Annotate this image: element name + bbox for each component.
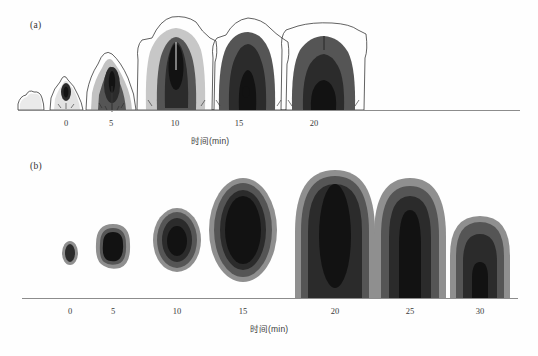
panel-b-axis-title: 时间(min) [0, 322, 538, 334]
plume-a-4 [212, 18, 289, 110]
figure-root: (a) [0, 0, 538, 356]
blob-b-1 [96, 224, 130, 269]
tick-a-15: 15 [235, 118, 244, 128]
panel-a-plot [0, 0, 538, 110]
plume-a-5 [281, 23, 367, 110]
plume-a-3 [137, 17, 217, 110]
panel-b: (b) [0, 152, 538, 356]
blob-b-0 [62, 241, 78, 265]
tick-b-25: 25 [406, 306, 415, 316]
tick-b-20: 20 [331, 306, 340, 316]
tick-a-0: 0 [64, 118, 68, 128]
plume-a-0 [18, 91, 44, 110]
panel-b-baseline [22, 298, 518, 299]
tick-b-5: 5 [111, 306, 115, 316]
panel-a: (a) [0, 0, 538, 152]
blob-b-6 [450, 216, 510, 298]
tick-a-20: 20 [310, 118, 319, 128]
panel-a-plumes [0, 0, 538, 112]
tick-b-15: 15 [239, 306, 248, 316]
blob-b-3 [209, 178, 277, 282]
plume-a-1 [50, 76, 83, 110]
panel-a-axis-title: 时间(min) [0, 134, 420, 146]
tick-b-10: 10 [173, 306, 182, 316]
tick-b-30: 30 [476, 306, 485, 316]
panel-b-plot [0, 152, 538, 298]
blob-b-5 [374, 178, 446, 298]
panel-b-blobs [0, 152, 538, 300]
tick-a-10: 10 [171, 118, 180, 128]
tick-a-5: 5 [109, 118, 113, 128]
panel-b-ticklabels: 0 5 10 15 20 25 30 [0, 306, 538, 320]
tick-b-0: 0 [68, 306, 72, 316]
panel-a-ticklabels: 0 5 10 15 20 [0, 118, 538, 132]
plume-a-2 [86, 52, 136, 112]
panel-a-baseline [18, 110, 520, 111]
blob-b-4 [295, 170, 375, 298]
blob-b-2 [153, 208, 201, 272]
